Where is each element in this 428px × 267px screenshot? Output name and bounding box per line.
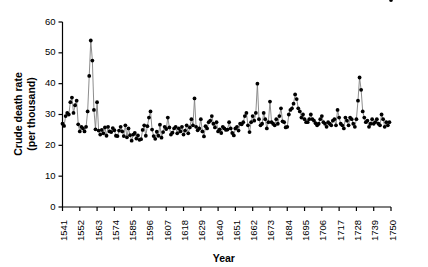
axes (59, 22, 392, 211)
chart-figure: Crude death rate(per thousand) 605040302… (0, 0, 428, 267)
data-series-crude-death-rate (61, 0, 393, 143)
plot-area (0, 0, 428, 267)
